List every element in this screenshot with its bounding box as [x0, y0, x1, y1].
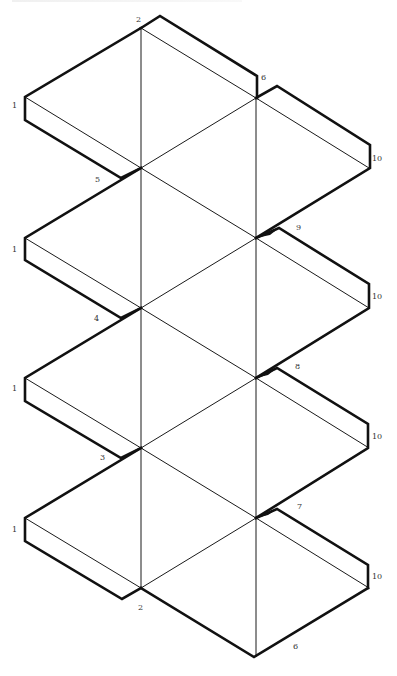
bottom-edge: [141, 588, 368, 657]
label-right-10: 10: [372, 154, 382, 163]
right-flap-outline-3: [256, 368, 368, 518]
right-flap-outline-4: [256, 509, 368, 588]
label-right-10: 10: [372, 572, 382, 581]
fold-line: [141, 238, 256, 308]
label-top-2: 2: [136, 15, 141, 24]
paper-net-diagram: 2 6 1 10 5 9 1 10 4 8 1 10 3 7 1 10 2 6: [0, 0, 397, 676]
left-flap-outline-4: [25, 448, 141, 599]
label-left-1: 1: [12, 525, 17, 534]
flap-wedge: [121, 308, 141, 318]
fold-line: [141, 168, 256, 238]
fold-line: [141, 98, 256, 168]
label-right-10: 10: [372, 432, 382, 441]
label-left-4: 4: [94, 314, 99, 323]
fold-line: [141, 448, 256, 518]
label-left-1: 1: [12, 245, 17, 254]
top-flap-outline: [141, 16, 257, 98]
fold-lines: [25, 28, 369, 657]
flap-fold-line: [256, 518, 369, 588]
label-left-3: 3: [100, 453, 105, 462]
flap-fold-line: [25, 378, 141, 448]
flap-fold-line: [25, 518, 141, 588]
flap-fold-line: [25, 238, 141, 308]
fold-line: [141, 308, 256, 378]
label-bottom-6: 6: [293, 642, 298, 651]
label-right-6-top: 6: [261, 73, 266, 82]
label-right-9: 9: [296, 223, 301, 232]
flap-fold-line: [25, 97, 141, 168]
left-flap-outline-2: [25, 168, 141, 318]
label-left-5: 5: [95, 175, 100, 184]
label-left-1: 1: [12, 101, 17, 110]
right-flap-outline-2: [256, 228, 369, 378]
flap-wedge: [121, 168, 141, 178]
label-left-1: 1: [12, 384, 17, 393]
label-right-7: 7: [297, 502, 302, 511]
left-flap-outline-3: [25, 308, 141, 458]
fold-line: [141, 378, 256, 448]
fold-line: [141, 518, 256, 588]
left-flap-outline-1: [25, 28, 141, 178]
cut-outline: [25, 16, 370, 657]
flap-wedge: [121, 448, 141, 458]
label-right-8: 8: [295, 362, 300, 371]
label-bottom-2: 2: [138, 603, 143, 612]
label-right-10: 10: [372, 292, 382, 301]
